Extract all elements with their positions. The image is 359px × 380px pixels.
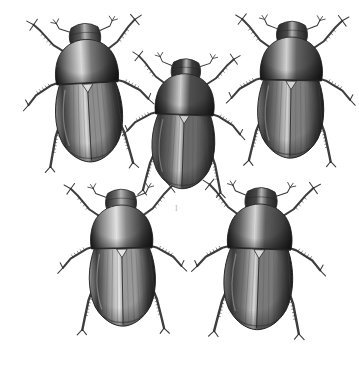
beetle-leg [192, 260, 198, 271]
beetle-plate: I [0, 0, 359, 380]
beetle-pronotum [155, 73, 216, 116]
beetle-elytra [256, 80, 324, 159]
beetle-leg [138, 190, 147, 195]
beetle-leg [27, 19, 38, 30]
beetle-leg [327, 161, 336, 166]
beetle-leg [350, 95, 355, 106]
beetle-leg [129, 162, 139, 168]
beetle-pronotum [54, 38, 119, 85]
beetle-illustration [55, 179, 190, 339]
beetle-leg [338, 15, 349, 26]
beetle-leg [45, 167, 55, 173]
beetle-leg [77, 329, 86, 334]
beetle-leg [295, 334, 305, 340]
beetle-illustration [14, 10, 162, 177]
beetle-pronotum [90, 204, 153, 249]
beetle-leg [23, 100, 29, 111]
beetle-leg [208, 331, 218, 337]
beetle-leg [320, 265, 326, 276]
beetle-leg [64, 183, 75, 194]
beetle-elytra [53, 82, 125, 164]
beetle-bottom-left [55, 179, 190, 339]
beetle-leg [58, 263, 63, 274]
beetle-elytra [222, 248, 294, 331]
beetle-top-left [14, 10, 162, 177]
beetle-pronotum [260, 36, 323, 81]
beetle-leg [160, 328, 169, 333]
beetle-leg [309, 182, 320, 193]
beetle-leg [240, 129, 245, 139]
beetle-leg [230, 54, 240, 64]
plate-figure-mark: I [175, 205, 178, 213]
beetle-leg [216, 192, 225, 197]
beetle-leg [148, 93, 154, 104]
beetle-elytra [88, 248, 156, 327]
beetle-pronotum [227, 203, 293, 250]
